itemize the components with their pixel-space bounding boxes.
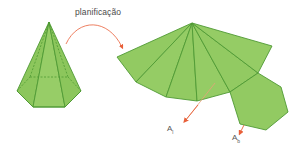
planification-label: planificação: [75, 7, 121, 17]
lateral-area-arrow-icon: [185, 105, 198, 121]
diagram-canvas: [0, 0, 301, 149]
lateral-area-label: Al: [167, 124, 173, 135]
pyramid-net: [117, 23, 288, 130]
base-area-label: Ab: [232, 133, 240, 144]
planification-arrow-icon: [66, 25, 122, 47]
lateral-area-label-sub: l: [172, 129, 173, 135]
base-area-arrow-icon: [240, 125, 244, 133]
base-area-label-sub: b: [237, 138, 240, 144]
pyramid-net-diagram: planificação Al Ab: [0, 0, 301, 149]
